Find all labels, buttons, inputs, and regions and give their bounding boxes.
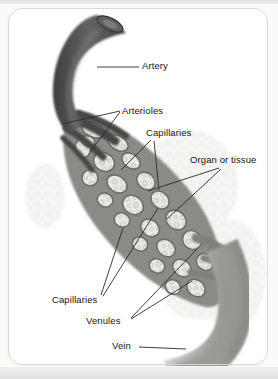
label-venules: Venules [86,315,121,326]
label-artery: Artery [142,60,168,71]
page-edge-top [0,0,278,4]
figure-frame [8,8,269,366]
label-capillaries-bottom: Capillaries [52,294,97,305]
illustration [8,8,269,366]
figure-canvas: Artery Arterioles Capillaries Organ or t… [0,0,278,379]
page-edge-bottom [0,367,278,379]
vein-leader-line [139,347,186,349]
label-arterioles: Arterioles [122,105,163,116]
label-organ-or-tissue: Organ or tissue [190,154,256,165]
label-vein: Vein [112,340,131,351]
label-capillaries-top: Capillaries [146,127,191,138]
